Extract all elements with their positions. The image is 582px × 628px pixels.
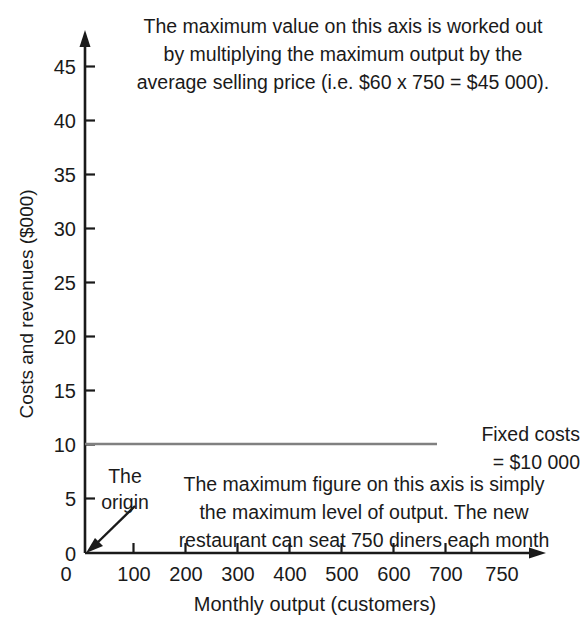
y-tick-label: 40 <box>30 111 76 131</box>
annotation-line: The <box>82 463 168 489</box>
annotation-line: average selling price (i.e. $60 x 750 = … <box>112 68 574 96</box>
annotation-origin: The origin <box>82 463 168 515</box>
annotation-x-axis-max: The maximum figure on this axis is simpl… <box>150 470 578 554</box>
x-tick-300: 300 <box>208 563 268 585</box>
y-tick-label: 45 <box>30 57 76 77</box>
plot-area: 45 40 35 30 25 20 15 10 5 0 0 <box>0 0 582 628</box>
y-tick-label: 5 <box>30 489 76 509</box>
annotation-y-axis-max: The maximum value on this axis is worked… <box>112 12 574 96</box>
x-tick-500: 500 <box>312 563 372 585</box>
chart-figure: 45 40 35 30 25 20 15 10 5 0 0 <box>0 0 582 628</box>
annotation-line: by multiplying the maximum output by the <box>112 40 574 68</box>
annotation-line: The maximum figure on this axis is simpl… <box>150 470 578 498</box>
x-tick-0: 0 <box>36 563 96 585</box>
y-tick-label: 0 <box>30 544 76 564</box>
y-axis-ticks <box>85 67 95 499</box>
annotation-line: restaurant can seat 750 diners each mont… <box>150 526 578 554</box>
y-tick-0: 0 <box>30 544 76 564</box>
annotation-line: origin <box>82 489 168 515</box>
x-tick-label: 600 <box>364 563 424 585</box>
x-tick-label: 0 <box>36 563 96 585</box>
x-tick-label: 300 <box>208 563 268 585</box>
y-axis-title: Costs and revenues ($000) <box>16 159 38 449</box>
x-tick-label: 400 <box>260 563 320 585</box>
y-tick-5: 5 <box>30 489 76 509</box>
annotation-fixed-costs: Fixed costs = $10 000 <box>432 420 580 476</box>
x-tick-label: 200 <box>156 563 216 585</box>
x-tick-label: 100 <box>104 563 164 585</box>
x-tick-100: 100 <box>104 563 164 585</box>
annotation-line: The maximum value on this axis is worked… <box>112 12 574 40</box>
x-axis-title: Monthly output (customers) <box>85 592 545 616</box>
x-tick-label: 500 <box>312 563 372 585</box>
x-tick-label: 750 <box>472 563 532 585</box>
x-tick-400: 400 <box>260 563 320 585</box>
x-tick-200: 200 <box>156 563 216 585</box>
x-tick-700: 700 <box>416 563 476 585</box>
y-tick-40: 40 <box>30 111 76 131</box>
x-tick-750: 750 <box>472 563 532 585</box>
x-tick-label: 700 <box>416 563 476 585</box>
x-tick-600: 600 <box>364 563 424 585</box>
annotation-line: Fixed costs <box>432 420 580 448</box>
y-tick-45: 45 <box>30 57 76 77</box>
annotation-line: the maximum level of output. The new <box>150 498 578 526</box>
